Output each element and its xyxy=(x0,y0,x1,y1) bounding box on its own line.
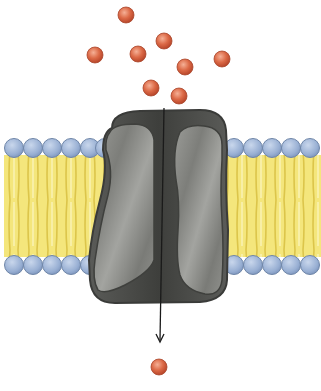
phospholipid-head-icon xyxy=(24,256,43,275)
solute-outside-icon xyxy=(87,47,103,63)
solute-outside-icon xyxy=(177,59,193,75)
phospholipid-head-icon xyxy=(5,256,24,275)
phospholipid-head-icon xyxy=(301,256,320,275)
phospholipid-head-icon xyxy=(62,256,81,275)
phospholipid-head-icon xyxy=(24,139,43,158)
solute-outside-icon xyxy=(171,88,187,104)
phospholipid-head-icon xyxy=(263,139,282,158)
solute-outside-icon xyxy=(130,46,146,62)
channel-protein-diagram xyxy=(0,0,321,391)
channel-subunit-right xyxy=(175,126,223,295)
phospholipid-head-icon xyxy=(62,139,81,158)
phospholipid-head-icon xyxy=(43,139,62,158)
phospholipid-head-icon xyxy=(263,256,282,275)
channel-protein xyxy=(89,110,228,303)
phospholipid-head-icon xyxy=(5,139,24,158)
phospholipid-head-icon xyxy=(244,139,263,158)
solute-outside-icon xyxy=(118,7,134,23)
phospholipid-head-icon xyxy=(43,256,62,275)
solute-outside-icon xyxy=(214,51,230,67)
solute-outside-icon xyxy=(156,33,172,49)
phospholipid-head-icon xyxy=(244,256,263,275)
phospholipid-head-icon xyxy=(282,139,301,158)
solute-inside-icon xyxy=(151,359,167,375)
phospholipid-head-icon xyxy=(301,139,320,158)
solute-outside-icon xyxy=(143,80,159,96)
phospholipid-head-icon xyxy=(282,256,301,275)
